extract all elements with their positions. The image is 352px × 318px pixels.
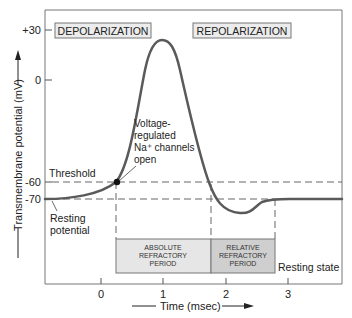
y-axis-label-group: Transmembrane potential (mV) xyxy=(12,50,24,258)
y-axis-ticks: +30 0 -60 -70 xyxy=(22,24,52,205)
svg-text:Na⁺ channels: Na⁺ channels xyxy=(134,142,195,153)
depolarization-label: DEPOLARIZATION xyxy=(55,23,151,38)
action-potential-diagram: +30 0 -60 -70 Transmembrane potential (m… xyxy=(0,0,352,318)
dashed-lines xyxy=(52,182,342,239)
y-tick-label: 0 xyxy=(35,74,41,86)
x-tick-label: 3 xyxy=(285,288,291,300)
x-tick-label: 0 xyxy=(98,288,104,300)
svg-text:RELATIVE: RELATIVE xyxy=(226,244,260,251)
svg-text:Voltage-: Voltage- xyxy=(134,118,171,129)
action-potential-curve xyxy=(45,40,342,213)
resting-pointer-line xyxy=(52,201,57,211)
svg-text:regulated: regulated xyxy=(134,130,176,141)
svg-text:PERIOD: PERIOD xyxy=(150,260,177,267)
svg-text:open: open xyxy=(134,154,156,165)
relative-refractory-period: RELATIVE REFRACTORY PERIOD xyxy=(211,239,275,273)
svg-text:PERIOD: PERIOD xyxy=(230,260,257,267)
x-tick-label: 1 xyxy=(160,288,166,300)
y-tick-label: -70 xyxy=(25,193,41,205)
y-axis-label: Transmembrane potential (mV) xyxy=(12,79,24,231)
repolarization-label: REPOLARIZATION xyxy=(193,23,291,38)
resting-state-label: Resting state xyxy=(278,261,339,273)
x-tick-label: 2 xyxy=(223,288,229,300)
x-axis-label: Time (msec) xyxy=(160,300,221,312)
threshold-point xyxy=(114,179,120,185)
threshold-label: Threshold xyxy=(49,167,96,179)
svg-text:REFRACTORY: REFRACTORY xyxy=(219,252,267,259)
svg-text:REFRACTORY: REFRACTORY xyxy=(139,252,187,259)
y-tick-label: +30 xyxy=(22,24,41,36)
absolute-refractory-period: ABSOLUTE REFRACTORY PERIOD xyxy=(116,239,211,273)
resting-potential-label-2: potential xyxy=(50,224,90,236)
x-axis-label-group: Time (msec) xyxy=(132,300,254,312)
svg-text:ABSOLUTE: ABSOLUTE xyxy=(144,244,182,251)
arrow-right-icon xyxy=(244,303,254,309)
svg-text:REPOLARIZATION: REPOLARIZATION xyxy=(197,25,288,37)
resting-potential-label: Resting xyxy=(50,212,86,224)
x-axis-ticks: 0 1 2 3 xyxy=(98,278,291,300)
arrow-up-icon xyxy=(15,50,21,60)
y-tick-label: -60 xyxy=(25,176,41,188)
svg-text:DEPOLARIZATION: DEPOLARIZATION xyxy=(58,25,149,37)
